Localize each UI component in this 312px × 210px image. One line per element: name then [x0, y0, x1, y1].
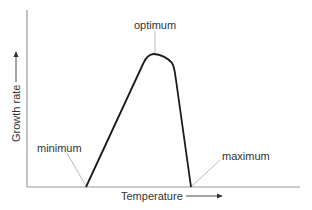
growth-rate-chart: minimum optimum maximum Temperature Grow… [0, 0, 312, 210]
maximum-leader-line [192, 160, 220, 186]
y-axis-arrow-icon [14, 51, 19, 82]
minimum-label: minimum [37, 142, 82, 154]
x-axis-arrow-icon [186, 194, 223, 199]
x-axis-title: Temperature [121, 190, 183, 202]
growth-curve [86, 54, 191, 187]
minimum-leader-line [67, 153, 86, 186]
y-axis-title: Growth rate [10, 85, 22, 142]
maximum-label: maximum [222, 150, 270, 162]
optimum-label: optimum [134, 19, 176, 31]
